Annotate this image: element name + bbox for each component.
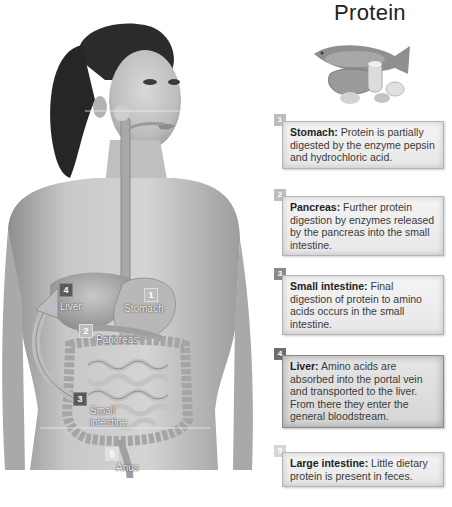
step-stomach: 1 Stomach: Protein is partially digested… — [268, 114, 452, 174]
step-box-5: Large intestine: Little dietary protein … — [282, 452, 444, 487]
figure-badge-5: 5 — [105, 447, 119, 461]
anus-label: Anus — [116, 462, 139, 473]
small-intestine-label-line2: intestine — [90, 417, 127, 428]
pancreas-label: Pancreas — [96, 334, 138, 345]
step-term: Small intestine: — [290, 280, 368, 292]
figure-badge-2: 2 — [79, 324, 93, 338]
step-term: Stomach: — [290, 126, 338, 138]
step-term: Liver: — [290, 360, 319, 372]
digestive-anatomy-figure: 4 Liver 1 Stomach 2 Pancreas 3 Small int… — [0, 0, 265, 507]
step-box-3: Small intestine: Final digestion of prot… — [282, 275, 444, 335]
figure-badge-4: 4 — [59, 283, 73, 297]
woman-torso-illustration — [0, 0, 265, 507]
protein-foods-icon — [300, 34, 440, 106]
step-large-intestine: 5 Large intestine: Little dietary protei… — [268, 445, 452, 495]
small-intestine-label-line1: Small — [90, 405, 115, 416]
step-small-intestine: 3 Small intestine: Final digestion of pr… — [268, 268, 452, 340]
stomach-label: Stomach — [124, 303, 163, 314]
step-liver: 4 Liver: Amino acids are absorbed into t… — [268, 348, 452, 433]
step-box-4: Liver: Amino acids are absorbed into the… — [282, 355, 444, 428]
step-pancreas: 2 Pancreas: Further protein digestion by… — [268, 189, 452, 261]
page-title: Protein — [300, 0, 440, 26]
step-box-1: Stomach: Protein is partially digested b… — [282, 121, 444, 169]
step-term: Large intestine: — [290, 457, 368, 469]
liver-label: Liver — [60, 301, 82, 312]
figure-badge-1: 1 — [144, 288, 158, 302]
figure-badge-3: 3 — [73, 392, 87, 406]
step-term: Pancreas: — [290, 201, 340, 213]
step-box-2: Pancreas: Further protein digestion by e… — [282, 196, 444, 256]
